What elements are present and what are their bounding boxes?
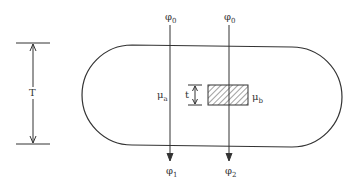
mu-a-label: μa [157,90,168,103]
inclusion-region [208,85,248,105]
beam-2-exit-label: φ2 [225,166,236,179]
beam-1-exit-label: φ1 [166,166,177,179]
T-label: T [29,88,36,98]
thickness-t-dimension [188,85,202,105]
attenuation-diagram [0,0,356,187]
t-label: t [185,90,189,100]
beam-2-incident-label: φ0 [224,12,235,25]
beam-1-incident-label: φ0 [165,12,176,25]
mu-b-label: μb [252,92,263,105]
